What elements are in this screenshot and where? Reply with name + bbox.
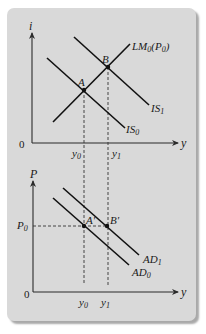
islm-graph: i y 0 A B LM0(P0) IS0 IS1 y0 y1 [19, 19, 187, 285]
y-axis-label-bottom: y [180, 285, 187, 299]
ad1-curve-label: AD1 [142, 253, 162, 267]
point-b-prime-label: B' [110, 214, 120, 226]
origin-label-bottom: 0 [24, 288, 30, 300]
point-b [106, 65, 110, 69]
point-a [82, 88, 86, 92]
ad0-curve-label: AD0 [131, 266, 151, 280]
point-a-prime-label: A' [85, 214, 96, 226]
lm-curve [53, 44, 130, 122]
ad-graph: P y 0 P0 A' B' AD1 AD0 y0 y1 [16, 167, 187, 310]
y0-tick-label-bottom: y0 [78, 296, 88, 310]
y0-tick-label-top: y0 [71, 147, 81, 161]
i-axis-label: i [29, 19, 32, 33]
point-a-label: A [77, 76, 85, 88]
is0-curve-label: IS0 [125, 123, 139, 137]
lm-curve-label: LM0(P0) [131, 40, 170, 54]
origin-label-top: 0 [19, 138, 25, 150]
is1-curve-label: IS1 [150, 102, 164, 116]
y1-tick-label-top: y1 [111, 147, 121, 161]
is0-curve [47, 58, 125, 128]
p0-tick-label: P0 [16, 219, 28, 233]
point-b-prime [105, 224, 109, 228]
islm-ad-diagram: i y 0 A B LM0(P0) IS0 IS1 y0 y1 P y 0 P0 [0, 0, 206, 334]
y1-tick-label-bottom: y1 [100, 296, 110, 310]
p-axis-label: P [29, 167, 38, 181]
y-axis-label-top: y [180, 136, 187, 150]
point-b-label: B [102, 53, 109, 65]
ad1-curve [63, 188, 139, 255]
ad0-curve [53, 198, 129, 265]
